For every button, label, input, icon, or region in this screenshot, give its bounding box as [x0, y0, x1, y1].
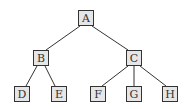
node-h: H — [162, 86, 178, 102]
node-f: F — [90, 86, 106, 102]
node-g: G — [126, 86, 142, 102]
node-e: E — [51, 86, 67, 102]
edge-b-d — [26, 66, 37, 86]
edge-b-e — [45, 66, 55, 86]
node-b: B — [33, 50, 49, 66]
node-d: D — [14, 86, 30, 102]
edge-a-c — [92, 26, 128, 50]
tree-diagram: A B C D E F G H — [0, 0, 189, 109]
edge-c-h — [140, 66, 166, 86]
edge-c-f — [102, 66, 128, 86]
node-a: A — [78, 10, 94, 26]
node-c: C — [126, 50, 142, 66]
edge-a-b — [46, 26, 80, 50]
